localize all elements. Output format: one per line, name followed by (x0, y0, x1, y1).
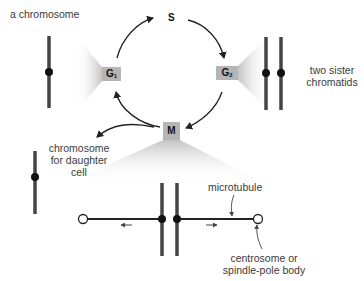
phase-s: S (168, 12, 175, 23)
arrow-m-to-g1 (116, 92, 160, 127)
phase-m: M (163, 122, 180, 140)
label-sister-line1: two sister (302, 64, 362, 76)
arrow-g2-to-m (186, 92, 222, 128)
label-daughter-line2: for daughter (46, 154, 112, 166)
centrosome-left (79, 215, 88, 224)
label-sister-line2: chromatids (302, 76, 362, 88)
centromere-g2-right (277, 69, 285, 77)
kinetochore-left (158, 215, 166, 223)
label-centrosome-line1: centrosome or (218, 252, 310, 264)
arrow-s-to-g2 (188, 20, 224, 58)
phase-m-label: M (167, 125, 175, 136)
centrosome-right (254, 215, 263, 224)
label-centrosome-line2: spindle-pole body (218, 264, 310, 276)
centrosome-callout (257, 225, 262, 249)
label-sister-chromatids: two sister chromatids (302, 64, 362, 88)
phase-g1-sub: 1 (114, 73, 117, 79)
centromere-daughter (31, 173, 39, 181)
label-microtubule: microtubule (208, 181, 262, 193)
label-daughter-line3: cell (46, 166, 112, 178)
kinetochore-right (173, 215, 181, 223)
phase-g1-label: G (106, 68, 114, 79)
phase-g2: G2 (216, 66, 238, 80)
arrow-m-to-daughter (97, 124, 154, 137)
centromere-g1 (45, 68, 53, 76)
label-daughter-chromosome: chromosome for daughter cell (46, 142, 112, 178)
label-centrosome: centrosome or spindle-pole body (218, 252, 310, 276)
cell-cycle-diagram (0, 0, 364, 281)
g1-funnel (76, 36, 102, 112)
microtubule-callout (231, 195, 234, 216)
centromere-g2-left (262, 69, 270, 77)
arrow-g1-to-s (117, 18, 153, 58)
label-chromosome: a chromosome (10, 8, 79, 20)
label-daughter-line1: chromosome (46, 142, 112, 154)
phase-g2-sub: 2 (229, 72, 232, 78)
phase-g1: G1 (102, 67, 121, 81)
